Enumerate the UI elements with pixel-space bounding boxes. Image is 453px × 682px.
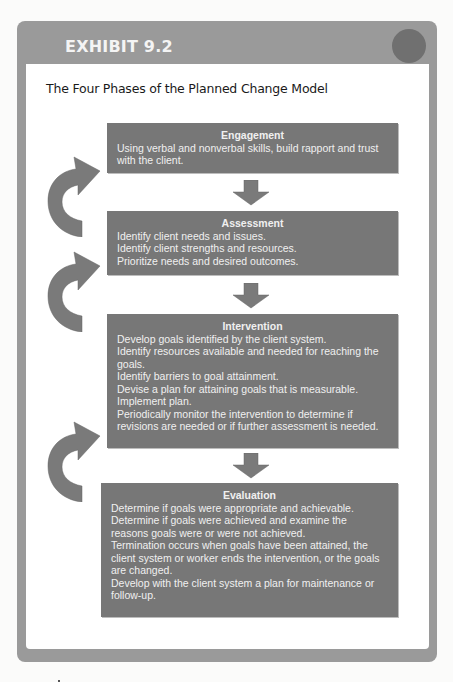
phase-line: Devise a plan for attaining goals that i… bbox=[117, 383, 388, 396]
phase-line: client system or worker ends the interve… bbox=[111, 552, 388, 565]
phase-line: Develop goals identified by the client s… bbox=[117, 333, 388, 346]
down-arrow-icon bbox=[232, 283, 270, 309]
phase-title: Evaluation bbox=[111, 489, 388, 502]
diagram-title: The Four Phases of the Planned Change Mo… bbox=[46, 81, 328, 96]
phase-line: Prioritize needs and desired outcomes. bbox=[117, 255, 388, 268]
down-arrow-icon bbox=[232, 453, 270, 479]
phase-line: Identify client needs and issues. bbox=[117, 230, 388, 243]
phase-line: Identify barriers to goal attainment. bbox=[117, 370, 388, 383]
phase-title: Intervention bbox=[117, 320, 388, 333]
phase-box-assessment: Assessment Identify client needs and iss… bbox=[107, 211, 398, 275]
curved-return-arrow-icon bbox=[42, 155, 102, 237]
phase-line: Identify resources available and needed … bbox=[117, 345, 388, 358]
phase-line: goals. bbox=[117, 358, 388, 371]
curved-return-arrow-icon bbox=[42, 250, 102, 332]
phase-line: with the client. bbox=[117, 154, 388, 167]
header-circle-decoration bbox=[392, 29, 426, 63]
phase-line: Determine if goals were achieved and exa… bbox=[111, 514, 388, 527]
exhibit-label: EXHIBIT 9.2 bbox=[65, 37, 173, 56]
phase-line: Using verbal and nonverbal skills, build… bbox=[117, 142, 388, 155]
phase-box-intervention: Intervention Develop goals identified by… bbox=[107, 314, 398, 448]
phase-line: Termination occurs when goals have been … bbox=[111, 539, 388, 552]
phase-line: revisions are needed or if further asses… bbox=[117, 420, 388, 433]
phase-line: Develop with the client system a plan fo… bbox=[111, 577, 388, 590]
down-arrow-icon bbox=[232, 180, 270, 206]
phase-line: Implement plan. bbox=[117, 395, 388, 408]
phase-box-engagement: Engagement Using verbal and nonverbal sk… bbox=[107, 123, 398, 173]
phase-line: Determine if goals were appropriate and … bbox=[111, 502, 388, 515]
phase-line: Periodically monitor the intervention to… bbox=[117, 408, 388, 421]
phase-title: Assessment bbox=[117, 217, 388, 230]
phase-line: follow-up. bbox=[111, 589, 388, 602]
phase-box-evaluation: Evaluation Determine if goals were appro… bbox=[101, 483, 398, 617]
phase-line: reasons goals were or were not achieved. bbox=[111, 527, 388, 540]
curved-return-arrow-icon bbox=[42, 420, 102, 502]
phase-line: are changed. bbox=[111, 564, 388, 577]
phase-title: Engagement bbox=[117, 129, 388, 142]
phase-line: Identify client strengths and resources. bbox=[117, 242, 388, 255]
